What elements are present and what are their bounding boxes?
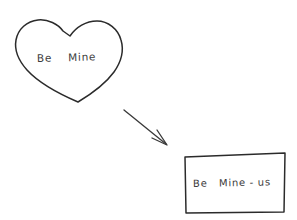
heart-label: Be Mine — [37, 50, 96, 64]
arrow-head — [152, 130, 167, 145]
arrow-shaft — [124, 110, 166, 144]
sketch-canvas: Be Mine Be Mine - us — [0, 0, 297, 220]
rectangle-label: Be Mine - us — [193, 177, 271, 189]
